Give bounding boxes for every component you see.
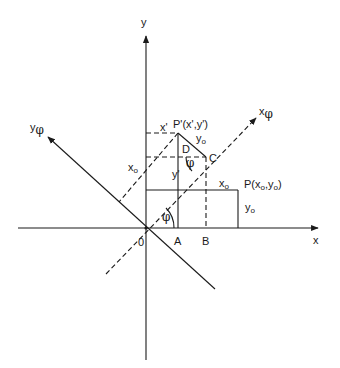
yo-right-label: yo — [245, 201, 256, 215]
x-prime-label: x' — [160, 121, 168, 133]
y-prime-label: y' — [172, 168, 180, 180]
phi-angle-c-label: φ — [186, 156, 194, 170]
point-d-label: D — [182, 143, 190, 155]
yo-upper-label: yo — [196, 132, 207, 146]
xo-left-label: xo — [128, 161, 139, 175]
point-b-label: B — [202, 235, 209, 247]
point-p-prime-label: P'(x',y') — [173, 118, 208, 130]
point-c-label: C — [209, 152, 217, 164]
point-p-label: P(xo,yo) — [244, 178, 282, 192]
x-phi-axis — [106, 118, 256, 274]
origin-label: 0 — [138, 236, 144, 248]
phi-angle-origin-label: φ — [162, 210, 170, 224]
point-a-label: A — [174, 235, 182, 247]
rotation-diagram: x y xφ yφ 0 A B C D P(xo,yo) P'(x',y') x… — [0, 0, 340, 368]
xo-top-label: xo — [219, 177, 230, 191]
x-axis-label: x — [313, 234, 319, 246]
origin-point — [144, 226, 147, 229]
y-phi-axis-label: yφ — [30, 121, 44, 137]
y-axis-label: y — [141, 16, 147, 28]
x-phi-axis-label: xφ — [259, 105, 273, 121]
